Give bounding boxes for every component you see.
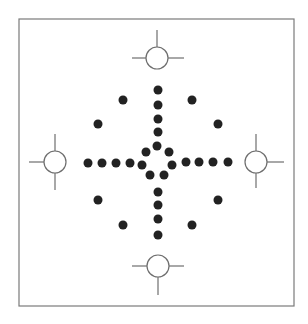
- filled-dot: [214, 120, 223, 129]
- filled-dot: [154, 231, 163, 240]
- filled-dot: [119, 221, 128, 230]
- target-marker-left: [29, 134, 66, 190]
- filled-dot: [154, 201, 163, 210]
- filled-dot: [146, 171, 155, 180]
- target-markers: [29, 30, 284, 295]
- filled-dot: [98, 159, 107, 168]
- filled-dot: [126, 159, 135, 168]
- filled-dot: [142, 148, 151, 157]
- dots-top-arm: [154, 86, 163, 137]
- filled-dot: [94, 196, 103, 205]
- dots-center-ring: [138, 142, 177, 180]
- target-marker-bottom: [132, 255, 184, 295]
- filled-dot: [94, 120, 103, 129]
- filled-dot: [84, 159, 93, 168]
- filled-dot: [154, 128, 163, 137]
- filled-dot: [160, 171, 169, 180]
- filled-dot: [138, 161, 147, 170]
- dots-bottom-arm: [154, 188, 163, 240]
- filled-dot: [182, 158, 191, 167]
- target-marker-right: [245, 134, 284, 188]
- dots-right-arm: [182, 158, 233, 167]
- dot-grid: [84, 86, 233, 240]
- target-marker-top: [132, 30, 184, 69]
- filled-dot: [195, 158, 204, 167]
- filled-dot: [154, 115, 163, 124]
- filled-dot: [112, 159, 121, 168]
- filled-dot: [168, 161, 177, 170]
- filled-dot: [154, 215, 163, 224]
- dot-pattern-diagram: [0, 0, 308, 324]
- open-circle-icon: [245, 151, 267, 173]
- filled-dot: [224, 158, 233, 167]
- filled-dot: [188, 96, 197, 105]
- open-circle-icon: [146, 47, 168, 69]
- filled-dot: [214, 196, 223, 205]
- filled-dot: [154, 101, 163, 110]
- filled-dot: [209, 158, 218, 167]
- filled-dot: [165, 148, 174, 157]
- open-circle-icon: [147, 255, 169, 277]
- filled-dot: [154, 86, 163, 95]
- filled-dot: [154, 188, 163, 197]
- dots-left-arm: [84, 159, 135, 168]
- filled-dot: [188, 221, 197, 230]
- open-circle-icon: [44, 151, 66, 173]
- filled-dot: [153, 142, 162, 151]
- filled-dot: [119, 96, 128, 105]
